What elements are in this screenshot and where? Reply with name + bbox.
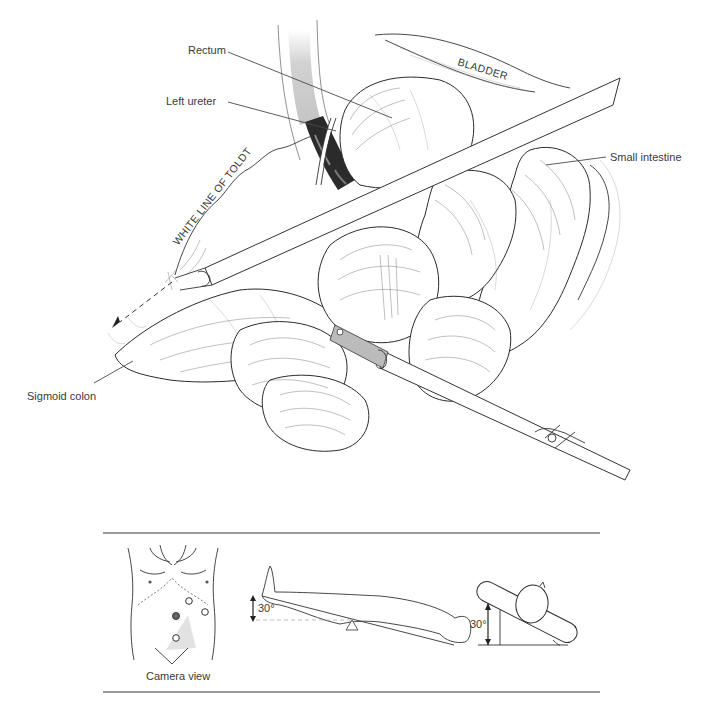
port-camera — [173, 613, 180, 620]
label-sigmoid-colon: Sigmoid colon — [27, 390, 96, 402]
camera-field-of-view — [166, 615, 196, 650]
label-small-intestine: Small intestine — [610, 151, 682, 163]
tilt-angle-side: 30° — [258, 602, 275, 614]
label-left-ureter: Left ureter — [166, 95, 216, 107]
trendelenburg-side-view — [250, 566, 471, 645]
nipple-right-icon — [205, 580, 208, 583]
port-1 — [186, 598, 193, 605]
port-2 — [202, 609, 209, 616]
torso-port-diagram — [128, 545, 218, 664]
leader-left-ureter — [228, 102, 336, 131]
nipple-left-icon — [148, 580, 151, 583]
label-rectum: Rectum — [188, 44, 226, 56]
leader-sigmoid-colon — [94, 361, 133, 383]
camera-view-caption: Camera view — [146, 670, 210, 682]
label-white-line-of-toldt: WHITE LINE OF TOLDT — [170, 145, 254, 247]
port-3 — [173, 635, 180, 642]
tilt-angle-end: 30° — [470, 618, 487, 630]
inset-panel: Camera view 30° 30° — [103, 533, 600, 692]
tilt-end-view — [473, 578, 580, 646]
main-illustration: Rectum Left ureter BLADDER Small intesti… — [27, 20, 682, 480]
arrowhead-icon — [112, 316, 120, 328]
surgical-figure: Rectum Left ureter BLADDER Small intesti… — [0, 0, 706, 717]
